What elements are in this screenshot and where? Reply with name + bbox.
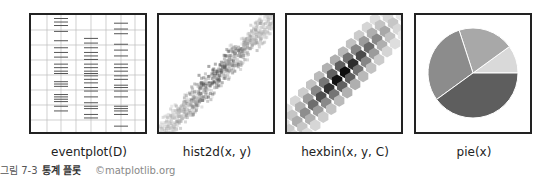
eventplot-label: eventplot(D) [24, 145, 154, 159]
figure-caption: 그림 7-3통계 플롯©matplotlib.org [0, 162, 175, 177]
eventplot-panel [29, 13, 147, 134]
pie-chart [416, 15, 530, 132]
hist2d-label: hist2d(x, y) [152, 145, 282, 159]
hexbin-panel [285, 13, 403, 134]
credit-text: ©matplotlib.org [95, 165, 175, 176]
pie-panel [414, 13, 532, 134]
pie-label: pie(x) [409, 145, 539, 159]
hist2d-chart [159, 15, 273, 132]
eventplot-chart [31, 15, 145, 132]
figure-title: 통계 플롯 [42, 165, 81, 176]
figure-number: 그림 7-3 [0, 165, 38, 176]
hexbin-chart [287, 15, 401, 132]
hexbin-label: hexbin(x, y, C) [280, 145, 410, 159]
hist2d-panel [157, 13, 275, 134]
